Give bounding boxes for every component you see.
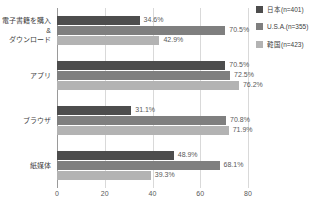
bar-chart: 電子書籍を購入&ダウンロードアプリブラウザ紙媒体 34.6%70.5%42.9%…	[0, 0, 324, 210]
bar-row: 70.5%	[57, 26, 248, 35]
bar-2-2	[57, 126, 229, 135]
bar-value-label: 48.9%	[178, 150, 198, 160]
y-axis-category-labels: 電子書籍を購入&ダウンロードアプリブラウザ紙媒体	[0, 8, 54, 188]
bar-value-label: 70.5%	[229, 60, 249, 70]
legend-item-1[interactable]: U.S.A.(n=355)	[256, 23, 324, 30]
legend-label: 韓国(n=423)	[267, 39, 304, 49]
bar-value-label: 31.1%	[135, 105, 155, 115]
y-category-label: 電子書籍を購入&ダウンロード	[2, 16, 51, 45]
bar-group: 70.5%72.5%76.2%	[57, 61, 248, 91]
bar-value-label: 34.6%	[144, 15, 164, 25]
bar-value-label: 72.5%	[234, 70, 254, 80]
bar-2-3	[57, 171, 151, 180]
bar-0-0	[57, 16, 140, 25]
bar-1-3	[57, 161, 220, 170]
bar-value-label: 71.9%	[233, 125, 253, 135]
legend-label: 日本(n=401)	[267, 4, 304, 14]
y-category-line: ダウンロード	[2, 35, 51, 45]
bar-0-1	[57, 61, 225, 70]
x-tick-label-20: 20	[101, 190, 109, 197]
bar-row: 70.5%	[57, 61, 248, 70]
y-category-line: アプリ	[30, 71, 51, 81]
bar-0-3	[57, 151, 174, 160]
y-category-line: ブラウザ	[23, 116, 51, 126]
x-axis-tick-labels: 020406080	[57, 190, 248, 204]
x-tick-label-0: 0	[55, 190, 59, 197]
bar-value-label: 42.9%	[163, 35, 183, 45]
plot-area: 34.6%70.5%42.9%70.5%72.5%76.2%31.1%70.8%…	[57, 8, 248, 188]
bar-group: 48.9%68.1%39.3%	[57, 151, 248, 181]
x-tick-label-40: 40	[149, 190, 157, 197]
y-category-label: アプリ	[30, 71, 51, 81]
bar-1-2	[57, 116, 226, 125]
x-tick-label-80: 80	[244, 190, 252, 197]
gridline-80	[248, 8, 249, 188]
legend-swatch-icon	[256, 41, 263, 48]
legend-swatch-icon	[256, 6, 263, 13]
bar-row: 71.9%	[57, 126, 248, 135]
bar-group: 31.1%70.8%71.9%	[57, 106, 248, 136]
bar-2-1	[57, 81, 239, 90]
bar-value-label: 68.1%	[224, 160, 244, 170]
bar-group: 34.6%70.5%42.9%	[57, 16, 248, 46]
bar-row: 72.5%	[57, 71, 248, 80]
y-category-line: &	[2, 26, 51, 36]
bar-row: 76.2%	[57, 81, 248, 90]
legend: 日本(n=401)U.S.A.(n=355)韓国(n=423)	[256, 4, 324, 58]
bar-0-2	[57, 106, 131, 115]
bar-row: 42.9%	[57, 36, 248, 45]
x-tick-label-60: 60	[196, 190, 204, 197]
bar-row: 68.1%	[57, 161, 248, 170]
bar-2-0	[57, 36, 159, 45]
bar-row: 39.3%	[57, 171, 248, 180]
bar-row: 31.1%	[57, 106, 248, 115]
legend-item-0[interactable]: 日本(n=401)	[256, 4, 324, 14]
bar-row: 34.6%	[57, 16, 248, 25]
bar-1-1	[57, 71, 230, 80]
bar-row: 48.9%	[57, 151, 248, 160]
bar-value-label: 70.5%	[229, 25, 249, 35]
legend-swatch-icon	[256, 23, 263, 30]
y-category-line: 紙媒体	[30, 161, 51, 171]
legend-item-2[interactable]: 韓国(n=423)	[256, 39, 324, 49]
bar-value-label: 39.3%	[155, 170, 175, 180]
y-category-line: 電子書籍を購入	[2, 16, 51, 26]
y-category-label: 紙媒体	[30, 161, 51, 171]
bar-value-label: 76.2%	[243, 80, 263, 90]
legend-label: U.S.A.(n=355)	[267, 23, 308, 30]
bar-row: 70.8%	[57, 116, 248, 125]
y-category-label: ブラウザ	[23, 116, 51, 126]
bar-value-label: 70.8%	[230, 115, 250, 125]
bar-1-0	[57, 26, 225, 35]
